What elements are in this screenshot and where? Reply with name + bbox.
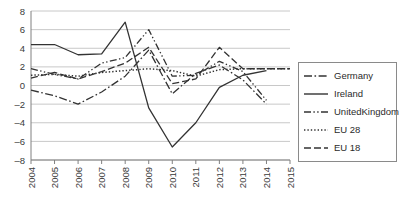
y-tick-label: 2 — [20, 61, 25, 72]
y-tick-label: –2 — [14, 99, 25, 110]
legend-label-unitedkingdom: UnitedKingdom — [334, 107, 399, 117]
y-tick-label: 8 — [20, 6, 25, 17]
y-tick-label: 4 — [20, 43, 25, 54]
gridlines — [31, 11, 290, 160]
legend-item-eu18[interactable]: EU 18 — [303, 139, 396, 157]
legend-key-eu28 — [303, 123, 329, 137]
legend-key-eu18 — [303, 141, 329, 155]
y-tick-labels: 86420–2–4–6–8 — [14, 6, 25, 166]
legend-label-germany: Germany — [334, 71, 373, 81]
legend: Germany Ireland UnitedKingdom EU 28 EU 1… — [298, 62, 397, 162]
legend-item-unitedkingdom[interactable]: UnitedKingdom — [303, 103, 396, 121]
legend-key-ireland — [303, 87, 329, 101]
legend-item-eu28[interactable]: EU 28 — [303, 121, 396, 139]
x-tick-label: 2008 — [120, 167, 131, 188]
legend-label-eu28: EU 28 — [334, 125, 360, 135]
legend-key-germany — [303, 69, 329, 83]
x-tick-label: 2012 — [214, 167, 225, 188]
x-tick-label: 2007 — [96, 167, 107, 188]
x-tick-label: 2011 — [190, 167, 201, 187]
x-tick-label: 2010 — [167, 167, 178, 188]
y-tick-label: 6 — [20, 24, 25, 35]
legend-label-eu18: EU 18 — [334, 143, 360, 153]
legend-item-germany[interactable]: Germany — [303, 67, 396, 85]
x-tick-label: 2015 — [285, 167, 296, 188]
x-tick-label: 2009 — [143, 167, 154, 188]
x-tick-label: 2013 — [237, 167, 248, 188]
x-tick-label: 2014 — [261, 167, 272, 188]
series-line-ireland — [31, 22, 266, 147]
data-series-group — [31, 22, 290, 147]
y-tick-label: –6 — [14, 136, 25, 147]
legend-item-ireland[interactable]: Ireland — [303, 85, 396, 103]
x-tick-label: 2006 — [73, 167, 84, 188]
y-tick-label: –4 — [14, 117, 25, 128]
x-tick-label: 2005 — [49, 167, 60, 188]
series-line-unitedkingdom — [31, 30, 266, 101]
x-tick-labels: 2004200520062007200820092010201120122013… — [26, 167, 296, 188]
line-chart: 86420–2–4–6–8 20042005200620072008200920… — [0, 0, 399, 220]
legend-label-ireland: Ireland — [334, 89, 363, 99]
x-tick-label: 2004 — [26, 167, 37, 188]
y-tick-label: 0 — [20, 80, 25, 91]
x-tick-marks — [31, 160, 290, 164]
y-tick-label: –8 — [14, 155, 25, 166]
legend-key-unitedkingdom — [303, 105, 329, 119]
